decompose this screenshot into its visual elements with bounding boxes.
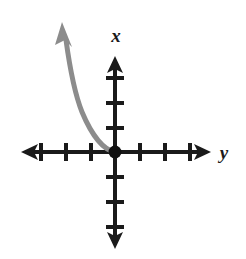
curve-path: [66, 40, 115, 152]
vertical-axis-label: x: [110, 25, 121, 46]
coordinate-plane-figure: x y: [0, 0, 246, 259]
curve-arrowhead: [55, 22, 72, 47]
origin-point-marker: [109, 146, 122, 159]
plotted-curve: [55, 22, 115, 152]
coordinate-graph: x y: [0, 0, 246, 259]
horizontal-axis-label: y: [218, 142, 229, 163]
